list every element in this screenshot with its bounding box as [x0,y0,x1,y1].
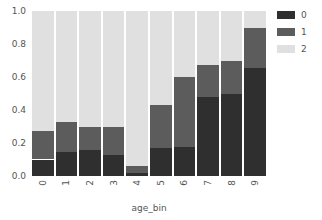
x-axis-title: age_bin [31,203,267,213]
plot-area [31,11,267,176]
bar-segment[interactable] [79,11,101,127]
x-tick-label: 0 [39,180,48,186]
bar-segment[interactable] [174,147,196,176]
y-axis: 0.00.20.40.60.81.0 [0,0,31,220]
x-tick-label: 4 [133,180,142,186]
x-tick-label: 3 [110,180,119,186]
bar-segment[interactable] [79,127,101,151]
x-tick-label: 1 [62,180,71,186]
bar-segment[interactable] [79,150,101,176]
legend-row[interactable]: 1 [277,25,322,39]
x-tick-label: 6 [180,180,189,186]
bar-segment[interactable] [244,28,266,68]
bar-group[interactable] [32,11,54,176]
y-tick-label: 0.6 [12,72,26,82]
x-tick-label: 2 [86,180,95,186]
y-tick-label: 0.4 [12,105,26,115]
legend-swatch [277,45,295,53]
stacked-bar-chart: 0.00.20.40.60.81.0 0123456789 age_bin 01… [0,0,322,220]
legend-swatch [277,28,295,36]
bar-segment[interactable] [244,11,266,28]
bar-segment[interactable] [32,131,54,159]
bar-segment[interactable] [197,11,219,65]
x-tick-label: 8 [228,180,237,186]
bar-segment[interactable] [126,11,148,166]
bar-group[interactable] [150,11,172,176]
y-tick-label: 0.8 [12,39,26,49]
bar-group[interactable] [221,11,243,176]
x-tick-label: 5 [157,180,166,186]
legend-label: 2 [301,45,307,54]
bar-group[interactable] [103,11,125,176]
bar-segment[interactable] [221,11,243,61]
bar-segment[interactable] [103,11,125,127]
bar-segment[interactable] [174,11,196,77]
bar-segment[interactable] [150,148,172,176]
bar-segment[interactable] [197,97,219,176]
bar-segment[interactable] [56,152,78,176]
bar-segment[interactable] [103,155,125,176]
bar-segment[interactable] [221,61,243,94]
bar-segment[interactable] [103,127,125,155]
bar-group[interactable] [56,11,78,176]
y-tick-label: 0.2 [12,138,26,148]
bar-segment[interactable] [221,94,243,177]
legend: 012 [277,8,322,59]
legend-row[interactable]: 0 [277,8,322,22]
bar-segment[interactable] [150,11,172,105]
legend-swatch [277,11,295,19]
bar-segment[interactable] [174,77,196,147]
bar-group[interactable] [126,11,148,176]
bar-group[interactable] [174,11,196,176]
x-tick-label: 9 [251,180,260,186]
bar-segment[interactable] [56,11,78,122]
legend-label: 0 [301,11,307,20]
legend-label: 1 [301,28,307,37]
legend-row[interactable]: 2 [277,42,322,56]
bar-group[interactable] [197,11,219,176]
bar-segment[interactable] [126,166,148,173]
y-tick-label: 1.0 [12,6,26,16]
y-tick-label: 0.0 [12,171,26,181]
bar-segment[interactable] [32,11,54,131]
bar-segment[interactable] [56,122,78,153]
bar-group[interactable] [244,11,266,176]
bar-segment[interactable] [197,65,219,96]
bar-segment[interactable] [244,68,266,176]
x-tick-label: 7 [204,180,213,186]
bar-segment[interactable] [32,160,54,177]
x-axis: 0123456789 [31,176,267,220]
bar-group[interactable] [79,11,101,176]
bar-segment[interactable] [150,105,172,148]
